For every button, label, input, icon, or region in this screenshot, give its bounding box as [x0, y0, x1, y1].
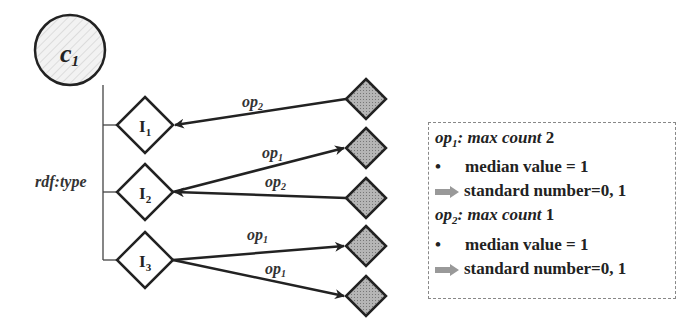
edge-op1-i3a — [173, 246, 344, 260]
value-node-4 — [346, 226, 386, 266]
legend-op1-header: op1: max count 2 — [435, 126, 675, 155]
legend-op1-median: •median value = 1 — [435, 155, 675, 179]
edge-op1-i3b — [173, 260, 344, 296]
value-node-3 — [346, 178, 386, 218]
instance-node-i3: I3 — [117, 232, 173, 288]
rdf-type-connector — [103, 85, 117, 260]
legend-op1-standard: standard number=0, 1 — [435, 179, 675, 203]
value-node-5 — [346, 276, 386, 316]
value-node-1 — [346, 79, 386, 119]
svg-text:op2: op2 — [242, 93, 263, 112]
legend-op2-standard: standard number=0, 1 — [435, 257, 675, 281]
edge-op2-i2 — [175, 192, 346, 198]
edge-op1-i2 — [173, 148, 344, 192]
instance-node-i2: I2 — [117, 164, 173, 220]
svg-text:op2: op2 — [265, 173, 286, 192]
bullet-icon: • — [435, 233, 465, 257]
value-node-2 — [346, 128, 386, 168]
svg-text:op1: op1 — [262, 144, 283, 163]
value-nodes — [346, 79, 386, 316]
legend-op2-header: op2: max count 1 — [435, 203, 675, 232]
class-node-c1: c1 — [35, 15, 105, 85]
svg-text:op1: op1 — [265, 260, 286, 279]
legend-op2-median: •median value = 1 — [435, 233, 675, 257]
instance-node-i1: I1 — [117, 97, 173, 153]
svg-text:op1: op1 — [247, 226, 268, 245]
rdf-type-label: rdf:type — [35, 173, 87, 191]
arrow-right-icon — [435, 186, 459, 198]
arrow-right-icon — [435, 264, 459, 276]
constraint-legend: op1: max count 2 •median value = 1 stand… — [428, 122, 676, 299]
edges — [173, 99, 346, 296]
bullet-icon: • — [435, 155, 465, 179]
